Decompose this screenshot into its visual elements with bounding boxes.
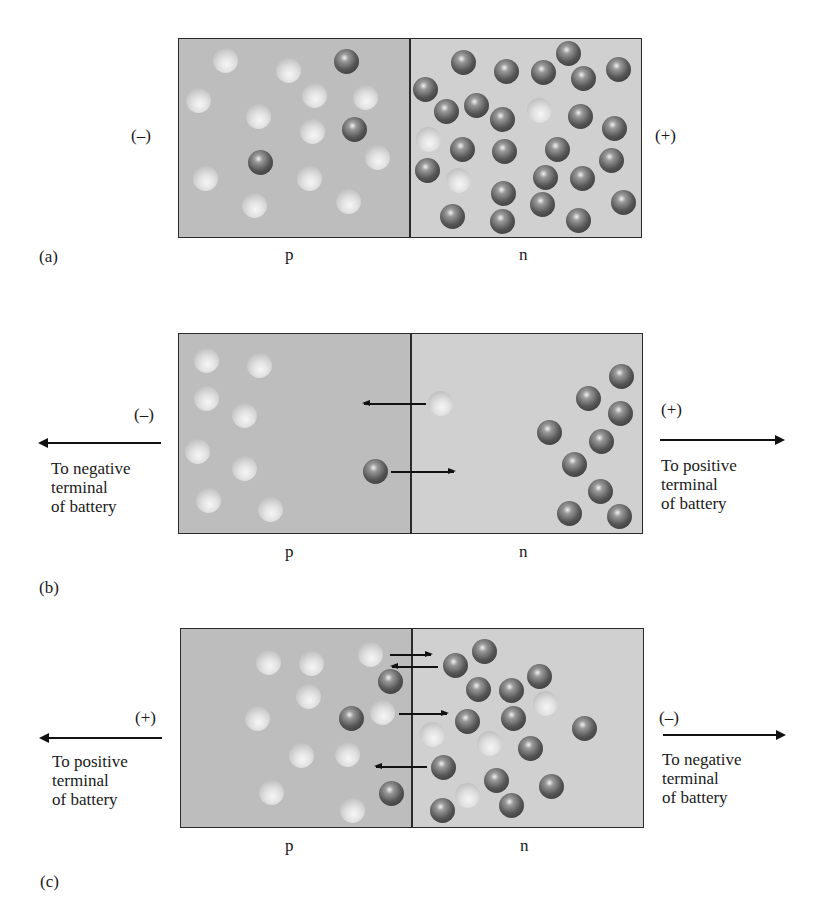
electron-particle xyxy=(339,706,364,731)
hole-particle xyxy=(370,700,395,725)
n-label-c: n xyxy=(520,836,529,855)
left-terminal-text-c: To positive terminal of battery xyxy=(52,752,128,809)
electron-particle xyxy=(379,781,404,806)
electron-particle xyxy=(466,677,491,702)
hole-particle xyxy=(259,780,284,805)
electron-particle xyxy=(443,653,468,678)
electron-particle xyxy=(430,798,455,823)
electron-particle xyxy=(431,755,456,780)
hole-particle xyxy=(358,642,383,667)
electron-particle xyxy=(572,716,597,741)
carrier-motion-arrow-left xyxy=(392,666,438,668)
electron-particle xyxy=(484,768,509,793)
electron-particle xyxy=(527,664,552,689)
p-label-c: p xyxy=(285,836,294,855)
panel-c: (+) To positive terminal of battery (–) … xyxy=(0,0,831,908)
electron-particle xyxy=(378,669,403,694)
hole-particle xyxy=(256,650,281,675)
hole-particle xyxy=(299,651,324,676)
arrow-to-positive-terminal-c xyxy=(41,737,162,739)
right-terminal-text-c: To negative terminal of battery xyxy=(662,750,742,807)
hole-particle xyxy=(533,691,558,716)
panel-tag-c: (c) xyxy=(40,872,59,891)
electron-particle xyxy=(499,678,524,703)
arrow-to-negative-terminal-c xyxy=(663,734,784,736)
electron-particle xyxy=(539,774,564,799)
electron-particle xyxy=(518,736,543,761)
carrier-motion-arrow-right xyxy=(390,654,431,656)
right-polarity-c: (–) xyxy=(659,708,679,727)
hole-particle xyxy=(477,731,502,756)
junction-line-c xyxy=(411,629,413,827)
hole-particle xyxy=(455,783,480,808)
electron-particle xyxy=(472,639,497,664)
carrier-motion-arrow-right xyxy=(399,713,447,715)
left-polarity-c: (+) xyxy=(135,708,156,727)
electron-particle xyxy=(499,793,524,818)
electron-particle xyxy=(455,709,480,734)
electron-particle xyxy=(501,706,526,731)
hole-particle xyxy=(245,706,270,731)
carrier-motion-arrow-left xyxy=(376,766,427,768)
hole-particle xyxy=(335,742,360,767)
hole-particle xyxy=(340,798,365,823)
hole-particle xyxy=(289,743,314,768)
hole-particle xyxy=(296,684,321,709)
hole-particle xyxy=(420,722,445,747)
